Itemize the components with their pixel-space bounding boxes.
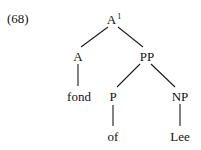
node-a1: A1 [107,10,121,26]
node-lee: Lee [170,130,189,143]
node-pp: PP [140,50,154,63]
edge-a1-pp [118,27,143,47]
edge-pp-p [117,64,140,87]
node-a1-label: A [107,12,116,27]
tree-edges [0,0,201,150]
node-a1-superscript: 1 [117,12,121,21]
node-of: of [108,130,119,143]
node-a: A [73,50,82,63]
edge-pp-np [151,64,175,87]
node-p: P [109,90,116,103]
edge-a1-a [81,27,108,47]
node-fond: fond [67,90,91,103]
node-np: NP [172,90,189,103]
